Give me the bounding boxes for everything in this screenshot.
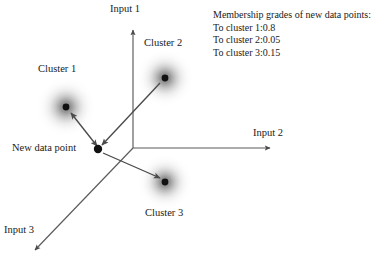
arrow-cluster2-to-point (102, 83, 160, 145)
axis-label-input3: Input 3 (4, 224, 34, 235)
membership-title: Membership grades of new data points: (213, 9, 371, 22)
axis-label-input1: Input 1 (110, 3, 140, 14)
membership-line-3: To cluster 3:0.15 (213, 47, 371, 60)
cluster-center-dot-2 (162, 75, 169, 82)
new-data-point-dot (94, 145, 102, 153)
new-data-point-label: New data point (12, 142, 76, 153)
axis-line-input3 (35, 148, 133, 250)
cluster-label-2: Cluster 2 (144, 37, 182, 48)
cluster-center-dot-3 (162, 179, 169, 186)
cluster-center-dot-1 (63, 104, 70, 111)
membership-grades-block: Membership grades of new data points: To… (213, 9, 371, 59)
figure-canvas: Input 1 Input 2 Input 3 Cluster 1 Cluste… (0, 0, 390, 261)
membership-line-2: To cluster 2:0.05 (213, 34, 371, 47)
cluster-label-3: Cluster 3 (145, 207, 183, 218)
membership-line-1: To cluster 1:0.8 (213, 22, 371, 35)
cluster-label-1: Cluster 1 (38, 63, 76, 74)
axis-label-input2: Input 2 (253, 127, 283, 138)
